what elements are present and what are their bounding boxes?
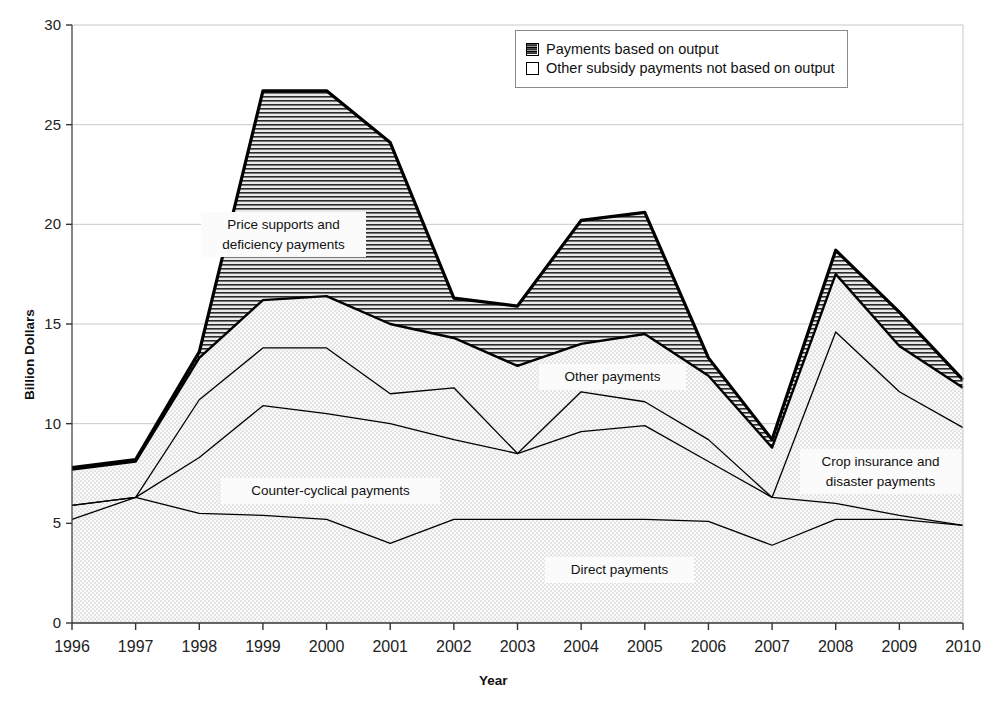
y-tick-label-1: 5 — [53, 514, 61, 531]
series-areas — [72, 91, 963, 623]
x-axis-title: Year — [479, 673, 508, 688]
x-axis-tick-labels: 1996199719981999200020012002200320042005… — [54, 638, 981, 655]
y-tick-label-3: 15 — [44, 315, 61, 332]
y-tick-label-6: 30 — [44, 16, 61, 33]
x-tick-label-12: 2008 — [818, 638, 854, 655]
chart-legend: Payments based on output Other subsidy p… — [515, 30, 848, 88]
chart-canvas: 1996199719981999200020012002200320042005… — [0, 0, 997, 703]
x-tick-label-8: 2004 — [563, 638, 599, 655]
y-axis-tick-labels: 051015202530 — [44, 16, 61, 631]
legend-entry-payments-based-on-output: Payments based on output — [526, 41, 835, 57]
area-chart: 1996199719981999200020012002200320042005… — [0, 0, 997, 703]
x-tick-label-13: 2009 — [882, 638, 918, 655]
x-tick-label-10: 2006 — [691, 638, 727, 655]
legend-label-1: Other subsidy payments not based on outp… — [546, 60, 835, 76]
x-tick-label-7: 2003 — [500, 638, 536, 655]
legend-swatch-empty-icon — [526, 62, 539, 75]
y-tick-label-0: 0 — [53, 614, 61, 631]
annotation-other-payments: Other payments — [539, 364, 686, 390]
legend-label-0: Payments based on output — [546, 41, 719, 57]
x-tick-label-9: 2005 — [627, 638, 663, 655]
x-tick-label-2: 1998 — [181, 638, 217, 655]
annotation-price-supports: Price supports and deficiency payments — [201, 212, 366, 257]
y-tick-label-4: 20 — [44, 215, 61, 232]
x-tick-label-3: 1999 — [245, 638, 281, 655]
annotation-crop-insurance: Crop insurance and disaster payments — [800, 449, 961, 494]
y-axis-title: Billion Dollars — [22, 309, 37, 400]
x-tick-label-0: 1996 — [54, 638, 90, 655]
y-tick-label-2: 10 — [44, 415, 61, 432]
legend-entry-other-subsidy-payments: Other subsidy payments not based on outp… — [526, 60, 835, 76]
x-tick-label-4: 2000 — [309, 638, 345, 655]
annotation-direct-payments: Direct payments — [545, 557, 694, 583]
x-tick-label-5: 2001 — [372, 638, 408, 655]
x-tick-label-1: 1997 — [118, 638, 154, 655]
legend-swatch-hatch-icon — [526, 43, 539, 56]
x-tick-label-6: 2002 — [436, 638, 472, 655]
x-tick-label-11: 2007 — [754, 638, 790, 655]
x-tick-label-14: 2010 — [945, 638, 981, 655]
y-tick-label-5: 25 — [44, 116, 61, 133]
annotation-counter-cyclical: Counter-cyclical payments — [221, 478, 440, 504]
